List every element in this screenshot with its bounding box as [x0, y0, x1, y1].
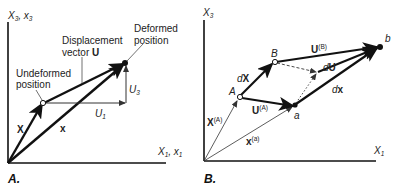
panel-b: X3 X1 A B a b U(B) dU dX dx U(A) X( [202, 7, 391, 186]
vector-X-arrow [8, 104, 42, 163]
vector-XA-label: X(A) [207, 116, 222, 128]
dashed-B-translate [277, 63, 316, 72]
displacement-label-line1: Displacement [62, 35, 123, 46]
point-B [272, 59, 277, 64]
deformation-diagram: X3, x3 X1, x1 Displacement vector U Defo… [0, 0, 399, 192]
vector-dU-label: dU [323, 62, 336, 73]
dotted-a-translate [296, 74, 316, 103]
component-U1-label: U1 [95, 108, 106, 120]
point-b [377, 44, 383, 50]
vector-UA-label: U(A) [252, 104, 268, 116]
vector-dX-label: dX [237, 73, 250, 84]
point-b-label: b [385, 33, 391, 44]
point-A [237, 94, 242, 99]
displacement-label-line2: vector U [62, 47, 99, 58]
deformed-label-line1: Deformed [134, 23, 178, 34]
component-U3-label: U3 [129, 84, 140, 96]
vector-xa-label: x(a) [246, 135, 260, 147]
axis-b-x-label: X1 [373, 145, 385, 157]
point-a [292, 102, 297, 107]
panel-a: X3, x3 X1, x1 Displacement vector U Defo… [7, 10, 183, 186]
undeformed-label-line2: position [16, 79, 50, 90]
vector-UB-label: U(B) [311, 43, 327, 55]
axis-a-x-label: X1, x1 [157, 146, 183, 158]
vector-x-label: x [60, 123, 66, 134]
leader-deformed [127, 44, 143, 61]
vector-X-label: X [17, 124, 24, 135]
vector-dx-label: dx [332, 84, 344, 95]
panel-a-label: A. [7, 172, 20, 186]
panel-b-label: B. [204, 172, 216, 186]
undeformed-point [40, 100, 45, 105]
axis-b-y-label: X3 [202, 7, 214, 19]
point-a-label: a [294, 110, 300, 121]
vector-XA-arrow [204, 101, 237, 161]
point-B-label: B [271, 48, 278, 59]
leader-undeformed [36, 90, 42, 100]
point-A-label: A [228, 86, 236, 97]
deformed-label-line2: position [134, 35, 168, 46]
axis-a-y-label: X3, x3 [7, 10, 33, 22]
undeformed-label-line1: Undeformed [16, 68, 71, 79]
